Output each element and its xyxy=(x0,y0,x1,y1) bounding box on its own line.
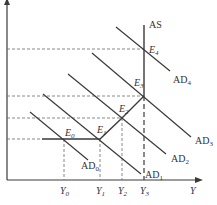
y1-tick: Y1 xyxy=(96,185,105,198)
e1-label: E1 xyxy=(96,124,107,137)
e2-label: E2 xyxy=(118,103,129,116)
as-label: AS xyxy=(149,19,162,30)
ad0-curve xyxy=(30,112,88,160)
ad2-curve xyxy=(68,74,166,154)
y3-tick: Y3 xyxy=(140,185,150,198)
y2-tick: Y2 xyxy=(118,185,128,198)
as-curve xyxy=(42,25,144,139)
y0-tick: Y0 xyxy=(60,185,70,198)
x-axis-label: Y xyxy=(190,185,197,196)
e3-label: E3 xyxy=(133,77,144,90)
ad2-label: AD2 xyxy=(171,153,189,166)
ad3-label: AD3 xyxy=(195,135,213,148)
y-axis-arrow-icon xyxy=(4,0,10,5)
ad-as-diagram: AS AD0 AD1 AD2 AD3 AD4 E0 E1 E2 E3 E4 Y0… xyxy=(0,0,217,205)
ad3-curve xyxy=(92,53,191,137)
e0-label: E0 xyxy=(64,127,75,140)
ad4-label: AD4 xyxy=(173,74,191,87)
ad0-label: AD0 xyxy=(81,160,99,173)
x-axis-arrow-icon xyxy=(195,177,203,183)
